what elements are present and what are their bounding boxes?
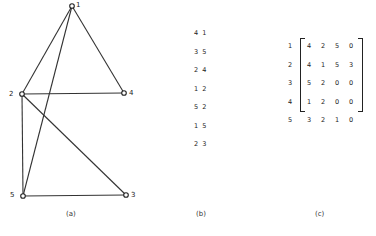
edge-pair: 2 4 (194, 66, 206, 74)
matrix-cell: 2 (318, 98, 328, 106)
left-bracket (300, 38, 305, 112)
edge-1-2 (22, 6, 72, 94)
edge-pair: 1 5 (194, 122, 206, 130)
node-label-2: 2 (9, 91, 13, 98)
caption-b: (b) (196, 210, 206, 218)
node-label-1: 1 (76, 2, 80, 9)
node-label-3: 3 (131, 192, 135, 199)
matrix-cell: 0 (332, 79, 342, 87)
matrix-row-label: 4 (288, 98, 292, 106)
matrix-cell: 5 (304, 79, 314, 87)
matrix-row-label: 5 (288, 116, 292, 124)
edge-5-3 (23, 195, 126, 196)
graph-drawing (0, 0, 160, 236)
edge-2-4 (22, 93, 124, 94)
caption-c: (c) (315, 210, 324, 218)
node-label-5: 5 (10, 192, 14, 199)
matrix-cell: 2 (318, 79, 328, 87)
matrix-cell: 0 (346, 98, 356, 106)
node-2 (20, 92, 25, 97)
matrix-cell: 5 (332, 61, 342, 69)
node-4 (122, 91, 127, 96)
matrix-row-label: 2 (288, 61, 292, 69)
node-label-4: 4 (129, 90, 133, 97)
matrix-cell: 2 (318, 42, 328, 50)
right-bracket (358, 38, 363, 112)
node-3 (124, 193, 129, 198)
matrix-cell: 4 (304, 61, 314, 69)
edge-2-3 (22, 94, 126, 195)
matrix-cell: 2 (318, 116, 328, 124)
matrix-cell: 0 (346, 42, 356, 50)
edge-pair: 1 2 (194, 85, 206, 93)
matrix-cell: 3 (346, 61, 356, 69)
matrix-row-label: 1 (288, 42, 292, 50)
matrix-cell: 0 (346, 79, 356, 87)
matrix-cell: 1 (332, 116, 342, 124)
matrix-cell: 1 (318, 61, 328, 69)
edge-pair: 2 3 (194, 140, 206, 148)
caption-a: (a) (66, 210, 76, 218)
matrix-cell: 0 (346, 116, 356, 124)
matrix-cell: 5 (332, 42, 342, 50)
edge-pair: 5 2 (194, 103, 206, 111)
edge-pair: 4 1 (194, 29, 206, 37)
matrix-cell: 1 (304, 98, 314, 106)
node-1 (70, 4, 75, 9)
node-5 (21, 194, 26, 199)
matrix-row-label: 3 (288, 79, 292, 87)
edge-1-5 (23, 6, 72, 196)
matrix-cell: 4 (304, 42, 314, 50)
edge-1-4 (72, 6, 124, 93)
edge-pair: 3 5 (194, 48, 206, 56)
matrix-cell: 3 (304, 116, 314, 124)
matrix-cell: 0 (332, 98, 342, 106)
edge-2-5 (22, 94, 23, 196)
